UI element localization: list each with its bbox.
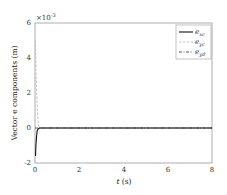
svg-text:2: 2 [27,89,31,97]
chart: ×10-3 6 4 2 0 -2 0 2 4 6 8 t (s) Vector … [0,0,227,195]
svg-text:4: 4 [27,54,32,62]
svg-text:4: 4 [122,166,127,174]
svg-text:0: 0 [33,166,37,174]
legend: exc eyc eyd [176,25,211,59]
x-axis-ticks: 0 2 4 6 8 [33,166,214,174]
svg-text:-2: -2 [24,159,31,167]
svg-text:6: 6 [27,19,32,27]
y-axis-label: Vector e components (m) [10,45,19,141]
svg-text:2: 2 [77,166,81,174]
y-multiplier: ×10-3 [36,12,56,22]
svg-text:6: 6 [166,166,171,174]
svg-text:8: 8 [210,166,214,174]
y-axis-ticks: 6 4 2 0 -2 [24,19,31,167]
x-axis-label: t (s) [116,177,131,186]
svg-text:0: 0 [27,124,31,132]
